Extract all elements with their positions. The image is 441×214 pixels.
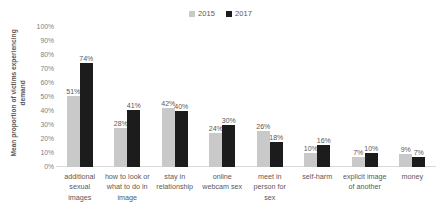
bar-2015[interactable] — [352, 157, 365, 167]
bar-pair: 28%41% — [104, 27, 152, 167]
bar-slot: 9% — [399, 27, 412, 167]
bar-2015[interactable] — [209, 133, 222, 167]
y-tick-label: 80% — [26, 52, 54, 59]
legend-item-2015: 2015 — [189, 10, 215, 18]
y-tick-label: 10% — [26, 150, 54, 157]
bar-value-label: 74% — [79, 55, 93, 62]
bar-slot: 24% — [209, 27, 222, 167]
category-label: additional sexual images — [56, 172, 104, 203]
bar-slot: 30% — [222, 27, 235, 167]
bar-2015[interactable] — [257, 131, 270, 167]
bar-value-label: 18% — [269, 134, 283, 141]
y-tick-label: 90% — [26, 38, 54, 45]
bar-value-label: 9% — [401, 146, 411, 153]
y-tick-label: 30% — [26, 122, 54, 129]
bar-slot: 42% — [162, 27, 175, 167]
bar-group: 42%40% — [151, 27, 199, 167]
plot-area: 51%74%28%41%42%40%24%30%26%18%10%16%7%10… — [56, 27, 436, 167]
bar-2015[interactable] — [114, 128, 127, 167]
chart-legend: 2015 2017 — [0, 8, 441, 20]
y-tick-label: 0% — [26, 164, 54, 171]
bar-value-label: 16% — [317, 137, 331, 144]
bar-slot: 74% — [80, 27, 93, 167]
bar-pair: 24%30% — [199, 27, 247, 167]
bar-slot: 41% — [127, 27, 140, 167]
category-label: self-harm — [294, 172, 342, 203]
bar-2017[interactable] — [270, 142, 283, 167]
bar-value-label: 26% — [256, 123, 270, 130]
y-axis-tick-labels: 100%90%80%70%60%50%40%30%20%10%0% — [26, 22, 54, 172]
bar-slot: 18% — [270, 27, 283, 167]
bar-slot: 26% — [257, 27, 270, 167]
bar-slot: 10% — [304, 27, 317, 167]
bar-2017[interactable] — [80, 63, 93, 167]
bar-pair: 51%74% — [56, 27, 104, 167]
y-tick-label: 20% — [26, 136, 54, 143]
bar-slot: 28% — [114, 27, 127, 167]
legend-label-2015: 2015 — [198, 10, 215, 18]
legend-label-2017: 2017 — [235, 10, 252, 18]
bar-pair: 26%18% — [246, 27, 294, 167]
bar-pair: 7%10% — [341, 27, 389, 167]
category-label: stay in relationship — [151, 172, 199, 203]
bar-2017[interactable] — [365, 153, 378, 167]
bar-group: 24%30% — [199, 27, 247, 167]
bar-slot: 40% — [175, 27, 188, 167]
bar-value-label: 10% — [364, 145, 378, 152]
bar-group: 51%74% — [56, 27, 104, 167]
y-tick-label: 70% — [26, 66, 54, 73]
bar-2017[interactable] — [222, 125, 235, 167]
bar-group: 7%10% — [341, 27, 389, 167]
bar-group: 9%7% — [389, 27, 437, 167]
bar-2015[interactable] — [162, 108, 175, 167]
bar-value-label: 42% — [161, 100, 175, 107]
category-label: explicit image of another — [341, 172, 389, 203]
y-tick-label: 40% — [26, 108, 54, 115]
y-tick-label: 50% — [26, 94, 54, 101]
x-axis-category-labels: additional sexual imageshow to look or w… — [56, 172, 436, 203]
legend-swatch-2015 — [189, 11, 195, 17]
bar-2017[interactable] — [412, 157, 425, 167]
legend-item-2017: 2017 — [226, 10, 252, 18]
bar-2015[interactable] — [399, 154, 412, 167]
bar-pair: 9%7% — [389, 27, 437, 167]
bar-value-label: 7% — [353, 149, 363, 156]
bar-groups: 51%74%28%41%42%40%24%30%26%18%10%16%7%10… — [56, 27, 436, 167]
bar-slot: 7% — [412, 27, 425, 167]
y-tick-label: 60% — [26, 80, 54, 87]
bar-pair: 42%40% — [151, 27, 199, 167]
bar-2015[interactable] — [67, 96, 80, 167]
bar-value-label: 7% — [414, 149, 424, 156]
bar-slot: 16% — [317, 27, 330, 167]
bar-value-label: 51% — [66, 88, 80, 95]
bar-2017[interactable] — [175, 111, 188, 167]
bar-slot: 10% — [365, 27, 378, 167]
bar-2017[interactable] — [317, 145, 330, 167]
bar-slot: 7% — [352, 27, 365, 167]
bar-group: 28%41% — [104, 27, 152, 167]
bar-slot: 51% — [67, 27, 80, 167]
bar-value-label: 24% — [209, 125, 223, 132]
legend-swatch-2017 — [226, 11, 232, 17]
bar-value-label: 41% — [127, 102, 141, 109]
bar-2015[interactable] — [304, 153, 317, 167]
category-label: money — [389, 172, 437, 203]
bar-value-label: 28% — [114, 120, 128, 127]
bar-2017[interactable] — [127, 110, 140, 167]
bar-chart: 2015 2017 Mean proportion of victims exp… — [0, 0, 441, 214]
bar-value-label: 30% — [222, 117, 236, 124]
category-label: how to look or what to do in image — [104, 172, 152, 203]
y-tick-label: 100% — [26, 24, 54, 31]
category-label: meet in person for sex — [246, 172, 294, 203]
category-label: online webcam sex — [199, 172, 247, 203]
bar-value-label: 40% — [174, 103, 188, 110]
bar-group: 10%16% — [294, 27, 342, 167]
bar-value-label: 10% — [304, 145, 318, 152]
bar-group: 26%18% — [246, 27, 294, 167]
bar-pair: 10%16% — [294, 27, 342, 167]
